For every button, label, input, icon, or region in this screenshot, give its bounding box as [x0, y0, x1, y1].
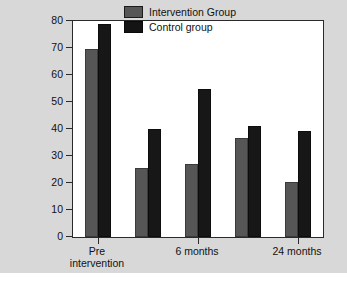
plot-frame: 01020304050607080 [72, 20, 324, 238]
legend-swatch-icon-intervention [124, 6, 143, 18]
y-axis-tick-label: 30 [51, 149, 63, 161]
bar-intervention [185, 164, 198, 237]
bar-intervention [235, 138, 248, 237]
y-axis-tick-label: 0 [57, 230, 63, 242]
y-axis-tick: 30 [66, 155, 73, 156]
chart-figure: Percent with anxiety disorder 0102030405… [0, 0, 347, 273]
y-axis-tick: 40 [66, 128, 73, 129]
bar-control [98, 24, 111, 237]
y-axis-tick: 10 [66, 209, 73, 210]
y-axis-tick-label: 50 [51, 95, 63, 107]
bar-intervention [135, 168, 148, 237]
x-axis-tick-label: 24 months [272, 245, 321, 257]
y-axis-tick-label: 40 [51, 122, 63, 134]
x-axis-tick-label: Preintervention [70, 245, 124, 269]
y-axis-tick: 60 [66, 74, 73, 75]
bar-intervention [285, 182, 298, 237]
y-axis-tick-label: 80 [51, 14, 63, 26]
bar-control [148, 129, 161, 237]
y-axis-tick: 80 [66, 20, 73, 21]
y-axis-tick: 70 [66, 47, 73, 48]
chart-legend: Intervention Group Control group [124, 6, 236, 33]
legend-entry-control: Control group [124, 21, 236, 33]
y-axis-tick-label: 10 [51, 203, 63, 215]
y-axis-tick: 50 [66, 101, 73, 102]
legend-label-intervention: Intervention Group [149, 6, 236, 18]
bar-intervention [85, 49, 98, 237]
plot-area: 01020304050607080 [73, 21, 323, 237]
legend-label-control: Control group [149, 21, 213, 33]
y-axis-tick-label: 20 [51, 176, 63, 188]
x-axis-tick-label: 6 months [175, 245, 218, 257]
x-axis-tick [98, 237, 99, 244]
x-axis-tick [298, 237, 299, 244]
y-axis-tick: 20 [66, 182, 73, 183]
bar-control [298, 131, 311, 237]
bar-control [248, 126, 261, 237]
y-axis-tick-label: 70 [51, 41, 63, 53]
y-axis-tick: 0 [66, 236, 73, 237]
bar-control [198, 89, 211, 238]
x-axis-tick [198, 237, 199, 244]
y-axis-tick-label: 60 [51, 68, 63, 80]
legend-swatch-icon-control [124, 21, 143, 33]
legend-entry-intervention: Intervention Group [124, 6, 236, 18]
